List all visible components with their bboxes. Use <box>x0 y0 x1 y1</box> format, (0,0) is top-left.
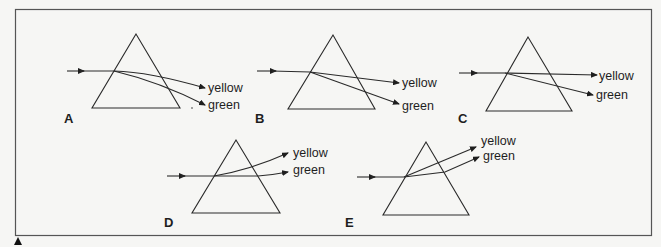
yellow-label-c: yellow <box>599 69 635 83</box>
figure-frame <box>16 10 652 236</box>
diagram-e: yellow green E <box>345 134 517 230</box>
incident-ray-b <box>272 71 310 72</box>
corner-marker-icon <box>14 237 22 245</box>
yellow-label-a: yellow <box>208 81 244 95</box>
option-label-e: E <box>345 215 354 230</box>
diagram-d: yellow green D <box>164 140 329 230</box>
option-label-c: C <box>458 111 468 126</box>
green-label-a: green <box>208 98 240 112</box>
green-ray-c <box>505 73 593 95</box>
prism-diagram-figure: yellow green A yellow green B yellow gre… <box>0 0 661 247</box>
green-ray-b <box>310 72 399 104</box>
green-label-d: green <box>293 163 325 177</box>
option-label-b: B <box>255 111 264 126</box>
option-label-a: A <box>64 111 74 126</box>
diagram-b: yellow green B <box>255 35 438 126</box>
green-label-b: green <box>402 99 434 113</box>
yellow-label-b: yellow <box>402 76 438 90</box>
diagram-c: yellow green C <box>458 37 635 126</box>
diagram-a: yellow green A <box>64 34 244 126</box>
green-label-e: green <box>483 149 515 163</box>
yellow-label-d: yellow <box>293 146 329 160</box>
green-label-c: green <box>596 88 628 102</box>
green-ray-a <box>114 71 205 105</box>
yellow-label-e: yellow <box>481 134 517 148</box>
option-label-d: D <box>164 215 173 230</box>
prism-e <box>383 142 469 215</box>
